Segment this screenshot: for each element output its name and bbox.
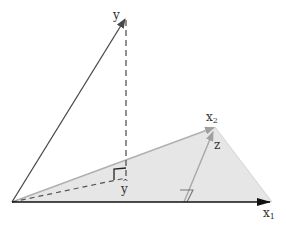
projection-diagram: y y ^ x2 z x1 [0,0,286,225]
x1-label: x1 [263,206,275,221]
x2-label-subscript: 2 [213,116,218,125]
x2-label: x2 [206,110,218,125]
y-hat-accent: ^ [122,177,129,186]
x1-label-subscript: 1 [270,212,275,221]
z-label: z [214,138,220,152]
y-label: y [112,8,120,22]
